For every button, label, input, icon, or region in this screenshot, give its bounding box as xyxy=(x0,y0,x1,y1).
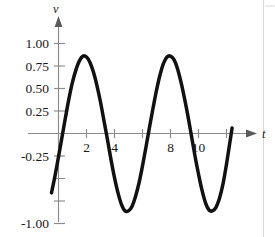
x-tick-label-4: 4 xyxy=(111,140,118,155)
y-tick-label-neg-0.25: -0.25 xyxy=(21,149,49,164)
x-tick-label-2: 2 xyxy=(83,140,90,155)
y-axis-label: v xyxy=(53,2,59,16)
y-tick-label-0.75: 0.75 xyxy=(25,59,49,74)
y-tick-label-0.50: 0.50 xyxy=(25,81,49,96)
x-axis-label: t xyxy=(262,127,266,141)
y-tick-label-neg-1.00: -1.00 xyxy=(21,216,49,231)
chart-figure: 1.00 0.75 0.50 0.25 -0.25 -1.00 2 4 8 10… xyxy=(0,0,275,237)
sine-wave-plot: 1.00 0.75 0.50 0.25 -0.25 -1.00 2 4 8 10… xyxy=(0,0,275,237)
x-tick-label-8: 8 xyxy=(167,140,174,155)
y-tick-label-1.00: 1.00 xyxy=(25,36,49,51)
y-tick-label-0.25: 0.25 xyxy=(25,104,49,119)
